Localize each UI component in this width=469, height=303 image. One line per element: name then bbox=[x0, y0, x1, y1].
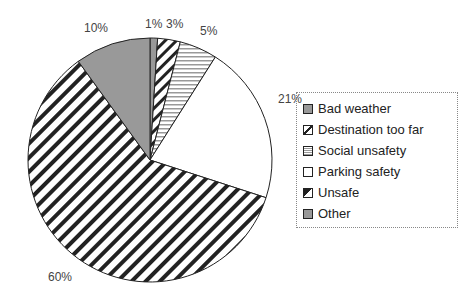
label-unsafe: 60% bbox=[48, 270, 72, 284]
legend-item: Destination too far bbox=[303, 119, 457, 140]
legend-item: Other bbox=[303, 203, 457, 224]
legend-item: Bad weather bbox=[303, 98, 457, 119]
label-other: 10% bbox=[84, 21, 108, 35]
legend-item: Social unsafety bbox=[303, 140, 457, 161]
label-destination: 3% bbox=[166, 17, 183, 31]
chart-legend: Bad weather Destination too far Social u… bbox=[296, 92, 458, 228]
label-bad-weather: 1% bbox=[145, 17, 162, 31]
label-social: 5% bbox=[200, 24, 217, 38]
legend-item: Unsafe bbox=[303, 182, 457, 203]
legend-item: Parking safety bbox=[303, 161, 457, 182]
